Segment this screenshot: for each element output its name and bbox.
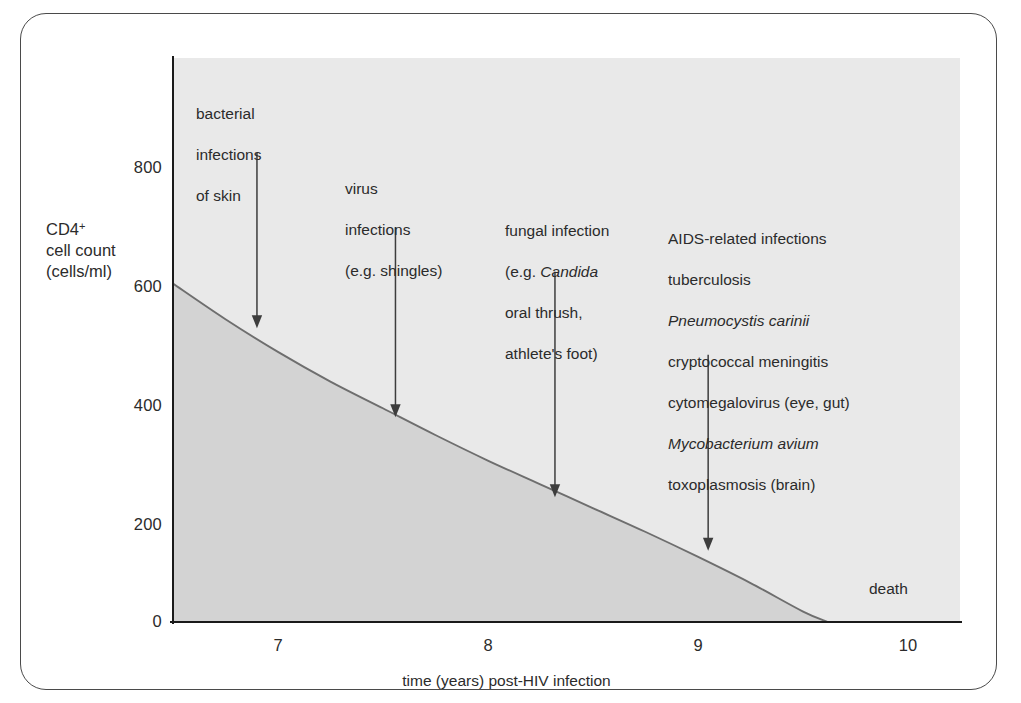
annotation-aids-related-infections: AIDS-related infections tuberculosis Pne… (668, 208, 850, 516)
y-axis-title-line2: cell count (46, 240, 116, 261)
annotation-line: cryptococcal meningitis (668, 352, 850, 373)
y-axis-ticks: 800 600 400 200 0 (100, 0, 162, 703)
figure-page: 800 600 400 200 0 7 8 9 10 CD4+ cell cou… (0, 0, 1021, 703)
x-tick-9: 9 (668, 636, 728, 655)
annotation-line-prefix: (e.g. (505, 263, 540, 280)
annotation-line: bacterial (196, 104, 261, 125)
annotation-virus-infections: virus infections (e.g. shingles) (345, 158, 442, 302)
annotation-line: (e.g. shingles) (345, 261, 442, 282)
y-tick-800: 800 (102, 158, 162, 177)
annotation-species-candida: Candida (540, 263, 598, 280)
x-axis-title: time (years) post-HIV infection (0, 672, 1021, 690)
annotation-line: cytomegalovirus (eye, gut) (668, 393, 850, 414)
x-axis-title-text: time (years) post-HIV infection (402, 672, 610, 690)
y-tick-400: 400 (102, 396, 162, 415)
annotation-bacterial-infections: bacterial infections of skin (196, 83, 261, 227)
death-label: death (869, 580, 908, 598)
annotation-line: oral thrush, (505, 303, 609, 324)
annotation-arrow-head-0 (252, 315, 262, 328)
annotation-line: tuberculosis (668, 270, 850, 291)
x-axis-line (170, 621, 962, 623)
x-tick-7: 7 (248, 636, 308, 655)
y-axis-line (172, 56, 174, 624)
annotation-species-mycobacterium-avium: Mycobacterium avium (668, 434, 850, 455)
annotation-line: (e.g. Candida (505, 262, 609, 283)
annotation-line: fungal infection (505, 221, 609, 242)
x-tick-10: 10 (878, 636, 938, 655)
y-axis-title: CD4+ cell count (cells/ml) (46, 216, 116, 282)
y-axis-superscript-plus: + (79, 220, 85, 232)
annotation-line: infections (196, 145, 261, 166)
annotation-line: virus (345, 179, 442, 200)
annotation-line: of skin (196, 186, 261, 207)
annotation-line: infections (345, 220, 442, 241)
y-tick-200: 200 (102, 515, 162, 534)
annotation-arrow-head-3 (703, 538, 713, 551)
annotation-line: AIDS-related infections (668, 229, 850, 250)
annotation-species-pneumocystis-carinii: Pneumocystis carinii (668, 311, 850, 332)
y-tick-0: 0 (102, 612, 162, 631)
annotation-line: toxoplasmosis (brain) (668, 475, 850, 496)
x-tick-8: 8 (458, 636, 518, 655)
y-axis-title-line1: CD4+ (46, 216, 116, 240)
annotation-line: athlete's foot) (505, 344, 609, 365)
y-axis-title-line3: (cells/ml) (46, 261, 116, 282)
annotation-fungal-infection: fungal infection (e.g. Candida oral thru… (505, 200, 609, 385)
